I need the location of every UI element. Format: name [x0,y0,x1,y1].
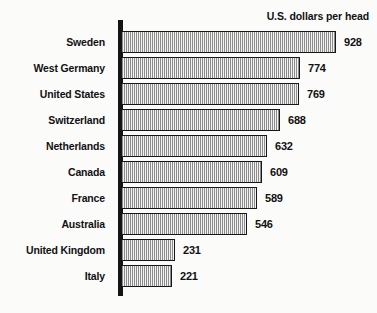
bar-value-label: 769 [307,88,325,100]
bar-row: United Kingdom231 [0,239,377,261]
bar-value-label: 632 [275,140,293,152]
category-label: United Kingdom [26,244,118,256]
bar-value-label: 589 [265,192,283,204]
bar-value-label: 231 [183,244,201,256]
bar-row: Australia546 [0,213,377,235]
bar-value-label: 774 [308,62,326,74]
bar [121,213,247,235]
bar-row: Canada609 [0,161,377,183]
bar-row: Sweden928 [0,31,377,53]
bar-value-label: 609 [270,166,288,178]
category-label: Canada [68,166,118,178]
category-label: Switzerland [48,114,118,126]
bar [121,161,262,183]
bar-value-label: 928 [344,36,362,48]
bar-row: Italy221 [0,265,377,287]
bar-row: Switzerland688 [0,109,377,131]
bar-value-label: 688 [288,114,306,126]
bar-row: France589 [0,187,377,209]
bar-row: Netherlands632 [0,135,377,157]
category-label: West Germany [33,62,118,74]
plot-area: Sweden928West Germany774United States769… [0,31,377,293]
category-label: France [71,192,118,204]
bar [121,135,267,157]
bar [121,57,300,79]
units-caption: U.S. dollars per head [267,10,369,22]
bar [121,265,172,287]
bar-value-label: 546 [255,218,273,230]
category-label: Australia [61,218,118,230]
bar [121,31,336,53]
bar [121,109,280,131]
category-label: United States [40,88,118,100]
bar-chart: U.S. dollars per head Sweden928West Germ… [0,0,377,313]
bar-row: United States769 [0,83,377,105]
category-label: Sweden [66,36,118,48]
category-label: Netherlands [46,140,118,152]
bar [121,187,257,209]
bar-row: West Germany774 [0,57,377,79]
category-label: Italy [85,270,118,282]
bar [121,239,175,261]
bar [121,83,299,105]
bar-value-label: 221 [180,270,198,282]
